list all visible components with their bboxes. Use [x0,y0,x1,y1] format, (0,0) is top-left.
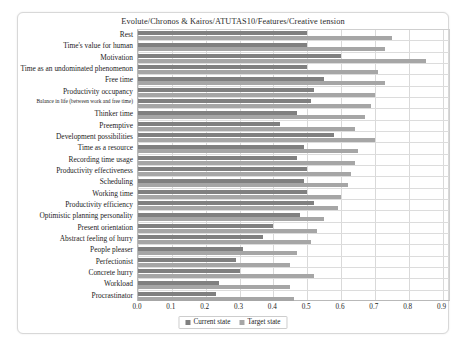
bar-target-state [138,47,385,51]
chart-legend: Current stateTarget state [178,316,287,329]
x-axis-labels: 0.00.10.20.30.40.50.60.70.80.9 [137,303,450,315]
x-axis-tick-label: 0.0 [133,303,142,311]
bar-current-state [138,224,273,228]
y-axis-label: Time as a resource [78,144,133,151]
x-axis-tick-label: 0.6 [336,303,345,311]
y-axis-label: Balance in life (between work and free t… [36,99,133,104]
y-axis-label: Present orientation [77,224,133,231]
bar-target-state [138,195,341,199]
y-axis-label: Thinker time [95,110,133,117]
bar-row [138,53,449,64]
bar-row [138,143,449,154]
bar-target-state [138,274,314,278]
bar-current-state [138,190,307,194]
chart-panel: Evolute/Chronos & Kairos/ATUTAS10/Featur… [17,12,449,334]
bar-current-state [138,54,341,58]
bar-current-state [138,31,307,35]
chart-screenshot: Evolute/Chronos & Kairos/ATUTAS10/Featur… [0,0,466,346]
bar-current-state [138,133,334,137]
bar-row [138,257,449,268]
legend-label: Current state [193,318,230,326]
y-axis-label: Time as an undominated phenomenon [20,65,133,72]
bar-current-state [138,43,307,47]
bar-target-state [138,59,426,63]
bar-target-state [138,240,311,244]
legend-item: Target state [239,318,280,326]
bar-target-state [138,297,294,301]
bar-current-state [138,167,307,171]
y-axis-label: Productivity effectiveness [56,167,133,174]
bar-row [138,41,449,52]
bar-row [138,234,449,245]
bar-current-state [138,111,297,115]
bar-row [138,132,449,143]
bar-target-state [138,115,365,119]
bar-target-state [138,149,358,153]
bar-row [138,189,449,200]
legend-label: Target state [247,318,280,326]
bar-current-state [138,201,314,205]
bar-target-state [138,285,290,289]
x-axis-tick-label: 0.9 [437,303,446,311]
x-axis-tick-label: 0.1 [166,303,175,311]
y-axis-label: Free time [105,76,133,83]
bar-current-state [138,88,314,92]
y-axis-label: Preemptive [99,122,133,129]
y-axis-label: Abstract feeling of hurry [60,235,133,242]
bar-current-state [138,213,300,217]
x-axis-tick-label: 0.5 [302,303,311,311]
bar-target-state [138,127,355,131]
bar-target-state [138,251,297,255]
bar-target-state [138,172,351,176]
y-axis-label: Productivity occupancy [63,88,133,95]
y-axis-label: Time's value for human [63,42,133,49]
y-axis-label: Motivation [100,54,133,61]
y-axis-label: People pleaser [90,246,133,253]
y-axis-labels: RestTime's value for humanMotivationTime… [18,29,135,301]
bar-row [138,200,449,211]
bar-current-state [138,247,243,251]
y-axis-label: Concrete hurry [88,269,133,276]
bar-row [138,211,449,222]
bar-target-state [138,93,375,97]
y-axis-label: Optimistic planning personality [39,212,133,219]
bar-current-state [138,281,219,285]
x-axis-tick-label: 0.8 [403,303,412,311]
legend-item: Current state [185,318,230,326]
bar-row [138,75,449,86]
y-axis-label: Working time [92,190,133,197]
bar-current-state [138,235,263,239]
bar-current-state [138,99,311,103]
legend-swatch-icon [185,320,190,325]
bar-row [138,64,449,75]
bar-target-state [138,104,371,108]
bar-row [138,121,449,132]
y-axis-label: Procrastinator [92,292,133,299]
bar-row [138,279,449,290]
bar-row [138,268,449,279]
bar-rows [138,30,449,300]
bar-target-state [138,81,385,85]
x-axis-tick-label: 0.4 [268,303,277,311]
bar-current-state [138,122,280,126]
bar-row [138,245,449,256]
x-axis-tick-label: 0.2 [200,303,209,311]
bar-row [138,166,449,177]
plot-area [137,29,450,301]
bar-current-state [138,65,307,69]
bar-row [138,155,449,166]
bar-target-state [138,70,378,74]
y-axis-label: Productivity efficiency [65,201,133,208]
bar-target-state [138,263,290,267]
y-axis-label: Recording time usage [69,156,133,163]
y-axis-label: Perfectionist [96,258,133,265]
bar-current-state [138,156,297,160]
y-axis-label: Rest [120,31,133,38]
bar-target-state [138,229,317,233]
bar-row [138,291,449,302]
bar-current-state [138,292,216,296]
legend-swatch-icon [239,320,244,325]
bar-target-state [138,138,375,142]
bar-current-state [138,269,240,273]
bar-row [138,98,449,109]
